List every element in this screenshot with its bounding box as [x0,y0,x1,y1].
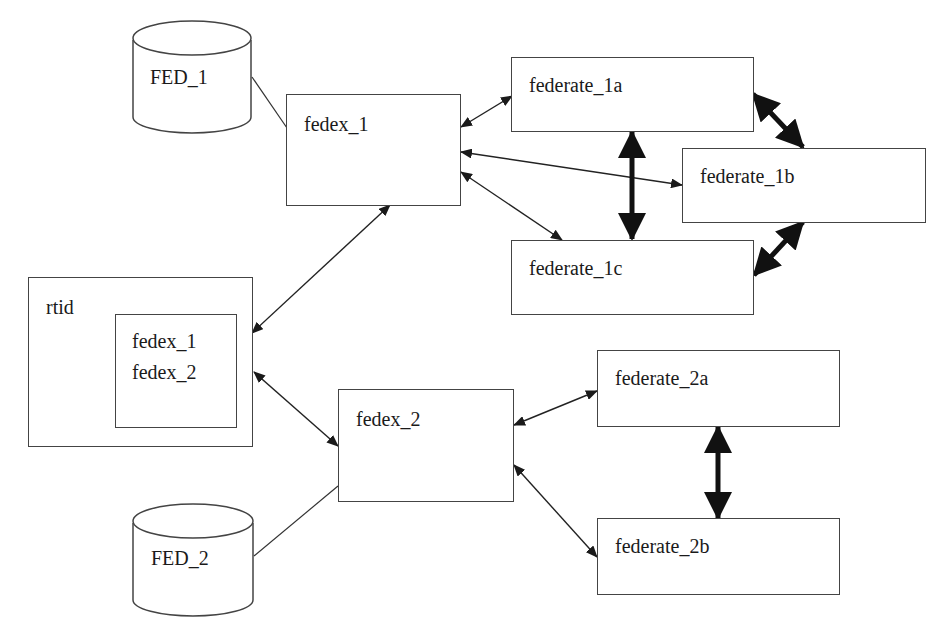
fedex1-node: fedex_1 [286,94,461,206]
link-fed1-fedex1 [252,77,287,128]
arrow-federate1a-federate1b [753,94,803,147]
fedex2-label: fedex_2 [356,408,420,430]
federate1a-node: federate_1a [511,57,754,132]
arrow-fedex2-federate2a [514,391,597,425]
link-fed2-fedex2 [254,486,338,556]
federate1b-node: federate_1b [682,148,926,223]
fedex1-label: fedex_1 [304,113,368,135]
federate1c-node: federate_1c [511,240,754,315]
federate2b-node: federate_2b [597,518,840,595]
federate1b-label: federate_1b [700,165,794,187]
arrow-fedex1-rtid [252,205,390,333]
federate1a-label: federate_1a [529,74,622,96]
rtid-registry-box: fedex_1 fedex_2 [115,314,237,428]
arrow-federate1b-federate1c [754,222,803,275]
arrow-fedex1-federate1b [461,152,682,185]
arrow-fedex2-federate2b [514,465,597,557]
rtid-label: rtid [46,296,74,318]
arrow-fedex1-federate1c [461,172,562,240]
federate1c-label: federate_1c [529,257,622,279]
federate2a-label: federate_2a [615,367,708,389]
federate2a-node: federate_2a [597,350,840,427]
federate2b-label: federate_2b [615,535,709,557]
database-fed1-label: FED_1 [150,66,208,88]
fedex2-node: fedex_2 [338,389,514,502]
database-fed2-label: FED_2 [151,547,209,569]
rtid-registry-item-fedex1: fedex_1 [132,330,196,352]
rtid-registry-item-fedex2: fedex_2 [132,361,196,383]
arrow-fedex2-rtid [254,372,338,446]
rtid-node: rtid fedex_1 fedex_2 [28,277,253,447]
federation-diagram: FED_1 FED_2 fedex_1 rtid fedex_1 fedex_2… [0,0,948,636]
arrow-fedex1-federate1a [461,96,512,127]
